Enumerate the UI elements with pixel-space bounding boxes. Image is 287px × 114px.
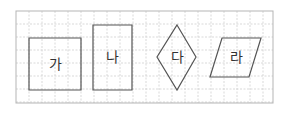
shape-da-rhombus: 다 xyxy=(157,25,196,90)
shape-label-na: 나 xyxy=(106,49,119,65)
shapes-figure: 가 나 다 라 xyxy=(0,0,287,114)
shape-label-da: 다 xyxy=(171,49,184,65)
shapes-group: 가 나 다 라 xyxy=(29,25,261,90)
shape-label-ra: 라 xyxy=(230,49,243,65)
shape-na-rectangle: 나 xyxy=(93,25,132,90)
shape-label-ga: 가 xyxy=(49,56,62,72)
shape-ra-parallelogram: 라 xyxy=(210,38,261,77)
